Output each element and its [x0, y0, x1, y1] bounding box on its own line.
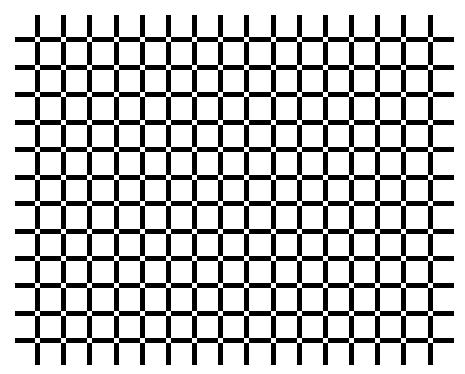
intersection-dot	[244, 147, 249, 152]
intersection-dot	[375, 229, 380, 234]
intersection-dot	[192, 229, 197, 234]
intersection-dot	[297, 338, 302, 343]
intersection-dot	[192, 311, 197, 316]
intersection-dot	[61, 120, 66, 125]
intersection-dot	[218, 37, 223, 42]
intersection-dot	[297, 147, 302, 152]
intersection-dot	[244, 283, 249, 288]
intersection-dot	[192, 65, 197, 70]
intersection-dot	[166, 175, 171, 180]
intersection-dot	[401, 147, 406, 152]
intersection-dot	[61, 201, 66, 206]
intersection-dot	[218, 256, 223, 261]
intersection-dot	[244, 256, 249, 261]
intersection-dot	[401, 201, 406, 206]
intersection-dot	[87, 256, 92, 261]
intersection-dot	[166, 37, 171, 42]
intersection-dot	[375, 256, 380, 261]
intersection-dot	[271, 65, 276, 70]
intersection-dot	[349, 256, 354, 261]
intersection-dot	[401, 120, 406, 125]
intersection-dot	[218, 338, 223, 343]
intersection-dot	[323, 92, 328, 97]
intersection-dot	[114, 120, 119, 125]
intersection-dot	[297, 175, 302, 180]
intersection-dot	[244, 201, 249, 206]
intersection-dot	[114, 201, 119, 206]
intersection-dot	[61, 338, 66, 343]
intersection-dot	[297, 65, 302, 70]
intersection-dot	[35, 37, 40, 42]
intersection-dot	[61, 256, 66, 261]
intersection-dot	[349, 338, 354, 343]
intersection-dot	[166, 229, 171, 234]
intersection-dot	[166, 311, 171, 316]
intersection-dot	[61, 283, 66, 288]
intersection-dot	[323, 256, 328, 261]
intersection-dot	[323, 65, 328, 70]
intersection-dot	[428, 175, 433, 180]
intersection-dot	[218, 175, 223, 180]
intersection-dot	[297, 229, 302, 234]
intersection-dot	[35, 283, 40, 288]
intersection-dot	[375, 120, 380, 125]
intersection-dot	[401, 175, 406, 180]
intersection-dot	[375, 338, 380, 343]
horizontal-line	[15, 338, 454, 343]
intersection-dot	[114, 311, 119, 316]
intersection-dot	[87, 311, 92, 316]
intersection-dot	[87, 65, 92, 70]
intersection-dot	[271, 283, 276, 288]
intersection-dot	[114, 283, 119, 288]
intersection-dot	[271, 229, 276, 234]
intersection-dot	[401, 37, 406, 42]
intersection-dot	[166, 283, 171, 288]
intersection-dot	[323, 37, 328, 42]
intersection-dot	[349, 92, 354, 97]
intersection-dot	[192, 338, 197, 343]
intersection-dot	[35, 256, 40, 261]
intersection-dot	[271, 338, 276, 343]
intersection-dot	[140, 175, 145, 180]
intersection-dot	[114, 147, 119, 152]
intersection-dot	[375, 175, 380, 180]
intersection-dot	[166, 338, 171, 343]
intersection-dot	[297, 201, 302, 206]
intersection-dot	[166, 65, 171, 70]
intersection-dot	[428, 37, 433, 42]
intersection-dot	[428, 256, 433, 261]
intersection-dot	[297, 283, 302, 288]
intersection-dot	[244, 120, 249, 125]
intersection-dot	[114, 37, 119, 42]
horizontal-line	[15, 65, 454, 70]
intersection-dot	[323, 283, 328, 288]
intersection-dot	[114, 256, 119, 261]
grid-illusion	[0, 0, 465, 374]
intersection-dot	[244, 65, 249, 70]
intersection-dot	[349, 229, 354, 234]
intersection-dot	[297, 37, 302, 42]
intersection-dot	[166, 147, 171, 152]
intersection-dot	[271, 201, 276, 206]
intersection-dot	[61, 37, 66, 42]
intersection-dot	[401, 256, 406, 261]
intersection-dot	[140, 256, 145, 261]
intersection-dot	[323, 175, 328, 180]
horizontal-line	[15, 256, 454, 261]
horizontal-line	[15, 120, 454, 125]
intersection-dot	[428, 65, 433, 70]
intersection-dot	[192, 283, 197, 288]
intersection-dot	[323, 338, 328, 343]
intersection-dot	[35, 65, 40, 70]
intersection-dot	[166, 92, 171, 97]
intersection-dot	[244, 175, 249, 180]
intersection-dot	[428, 338, 433, 343]
intersection-dot	[87, 37, 92, 42]
intersection-dot	[192, 201, 197, 206]
intersection-dot	[114, 92, 119, 97]
intersection-dot	[166, 201, 171, 206]
intersection-dot	[192, 175, 197, 180]
intersection-dot	[244, 37, 249, 42]
intersection-dot	[140, 37, 145, 42]
intersection-dot	[375, 92, 380, 97]
